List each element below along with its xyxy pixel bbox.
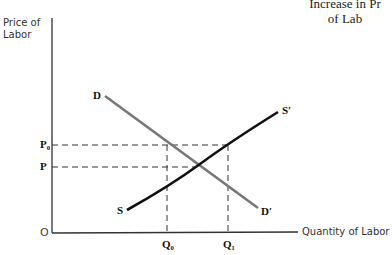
demand-start-label: D	[93, 89, 101, 101]
p-label: P	[40, 160, 47, 172]
chart-canvas	[0, 0, 392, 255]
demand-end-label: D′	[261, 205, 272, 217]
x-axis-label: Quantity of Labor	[302, 226, 390, 237]
p0-label: P₀	[40, 138, 50, 150]
x-axis	[52, 232, 298, 233]
q0-label: Q₀	[162, 238, 174, 250]
origin-label: O	[40, 226, 49, 239]
q1-label: Q₁	[223, 238, 235, 250]
supply-start-label: S	[117, 204, 123, 216]
supply-end-label: S′	[282, 104, 291, 116]
supply-curve	[127, 112, 278, 210]
demand-curve	[105, 96, 258, 208]
